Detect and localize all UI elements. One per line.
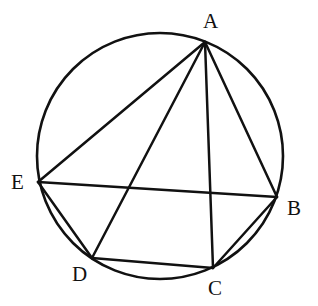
chord-ad bbox=[92, 42, 205, 258]
chord-ac bbox=[205, 42, 213, 268]
geometry-canvas bbox=[0, 0, 318, 306]
geometry-figure: A B C D E bbox=[0, 0, 318, 306]
vertex-label-e: E bbox=[11, 172, 24, 193]
vertex-label-a: A bbox=[203, 11, 218, 32]
circumscribed-circle bbox=[37, 33, 283, 279]
chord-ae bbox=[38, 42, 205, 182]
chord-cb bbox=[213, 197, 277, 268]
vertex-label-c: C bbox=[208, 278, 222, 299]
chord-ab bbox=[205, 42, 277, 197]
chord-dc bbox=[92, 258, 213, 268]
vertex-label-b: B bbox=[287, 198, 301, 219]
chord-ed bbox=[38, 182, 92, 258]
vertex-label-d: D bbox=[72, 264, 87, 285]
chord-eb bbox=[38, 182, 277, 197]
